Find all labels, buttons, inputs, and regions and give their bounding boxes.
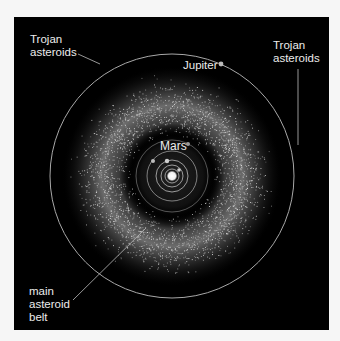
label-main-belt: main asteroid belt (29, 285, 70, 324)
label-mars: Mars (160, 140, 187, 153)
label-trojan-right-line2: asteroids (273, 52, 320, 65)
label-trojan-left-line2: asteroids (30, 46, 77, 59)
planet-venus-icon (165, 159, 169, 163)
label-jupiter: Jupiter (183, 59, 218, 72)
label-main-belt-line1: main (29, 285, 70, 298)
label-main-belt-line2: asteroid (29, 298, 70, 311)
leader-trojan-left (78, 54, 100, 64)
label-trojan-right: Trojan asteroids (273, 39, 320, 65)
sun-icon (167, 171, 177, 181)
label-trojan-left-line1: Trojan (30, 33, 77, 46)
planet-mercury-icon (177, 168, 181, 172)
label-main-belt-line3: belt (29, 311, 70, 324)
label-trojan-left: Trojan asteroids (30, 33, 77, 59)
planet-jupiter-icon (219, 62, 224, 67)
label-trojan-right-line1: Trojan (273, 39, 320, 52)
diagram-canvas: Trojan asteroids Trojan asteroids Jupite… (0, 0, 340, 341)
planet-earth-icon (151, 159, 155, 163)
